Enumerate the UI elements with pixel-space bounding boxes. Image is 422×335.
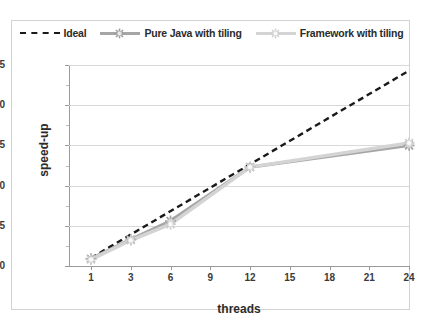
x-tick-label: 6 xyxy=(156,272,186,283)
x-tick-mark xyxy=(210,266,211,270)
x-axis-title: threads xyxy=(69,302,409,316)
x-tick-label: 9 xyxy=(195,272,225,283)
y-tick-label: 5 xyxy=(0,220,5,231)
legend-swatch-lightgray-line-icon xyxy=(256,28,296,38)
data-point-marker xyxy=(245,162,256,173)
legend-label-pure-java-with-tiling: Pure Java with tiling xyxy=(144,27,241,39)
legend-label-framework-with-tiling: Framework with tiling xyxy=(300,27,404,39)
x-tick-mark xyxy=(131,266,132,270)
x-tick-label: 21 xyxy=(354,272,384,283)
y-tick-label: 25 xyxy=(0,59,5,70)
x-tick-mark xyxy=(250,266,251,270)
data-point-marker xyxy=(125,235,136,246)
x-tick-label: 3 xyxy=(116,272,146,283)
y-tick-label: 20 xyxy=(0,99,5,110)
chart-figure: Ideal Pure Java with tiling xyxy=(11,20,410,310)
data-point-marker xyxy=(165,219,176,230)
x-axis-line xyxy=(69,266,409,267)
plot-area: 0510152025 13691215182124 speed-up threa… xyxy=(69,65,409,266)
y-tick-label: 15 xyxy=(0,139,5,150)
chart-legend: Ideal Pure Java with tiling xyxy=(12,27,411,39)
legend-item-pure-java-with-tiling: Pure Java with tiling xyxy=(100,27,241,39)
x-tick-label: 12 xyxy=(235,272,265,283)
legend-marker-starburst-icon xyxy=(114,28,125,39)
x-tick-label: 1 xyxy=(76,272,106,283)
x-tick-mark xyxy=(171,266,172,270)
x-tick-mark xyxy=(290,266,291,270)
x-tick-label: 15 xyxy=(275,272,305,283)
x-tick-mark xyxy=(91,266,92,270)
legend-item-ideal: Ideal xyxy=(20,27,87,39)
legend-swatch-dashed-line-icon xyxy=(20,28,60,38)
legend-swatch-gray-line-icon xyxy=(100,28,140,38)
legend-marker-starburst-light-icon xyxy=(270,28,281,39)
y-tick-label: 10 xyxy=(0,180,5,191)
data-point-marker xyxy=(86,254,97,265)
series-line-framework-with-tiling xyxy=(91,143,409,260)
x-tick-mark xyxy=(330,266,331,270)
series-layer xyxy=(69,65,409,266)
y-tick-label: 0 xyxy=(0,260,5,271)
x-tick-mark xyxy=(409,266,410,270)
legend-item-framework-with-tiling: Framework with tiling xyxy=(256,27,404,39)
x-tick-mark xyxy=(369,266,370,270)
x-tick-label: 18 xyxy=(315,272,345,283)
y-tick-mark xyxy=(65,266,69,267)
x-tick-label: 24 xyxy=(394,272,422,283)
legend-label-ideal: Ideal xyxy=(64,27,87,39)
y-axis-title: speed-up xyxy=(37,123,51,176)
data-point-marker xyxy=(404,138,415,149)
